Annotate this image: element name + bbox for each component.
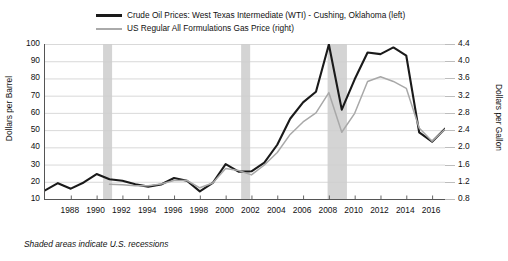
y2-tick-4.4: 4.4 — [458, 38, 484, 48]
series-line-gas — [110, 77, 445, 188]
y2-tick-2.0: 2.0 — [458, 141, 484, 151]
y2-tick-1.6: 1.6 — [458, 159, 484, 169]
y2-tick-mark — [445, 44, 455, 45]
series-line-wti — [45, 45, 445, 192]
y-tick-30: 30 — [10, 159, 40, 169]
line-swatch-gray-icon — [96, 28, 122, 30]
y-tick-70: 70 — [10, 90, 40, 100]
y2-tick-mark — [445, 78, 455, 79]
y2-tick-3.2: 3.2 — [458, 90, 484, 100]
chart-container: Crude Oil Prices: West Texas Intermediat… — [0, 0, 508, 261]
y2-tick-0.8: 0.8 — [458, 193, 484, 203]
chart-footnote: Shaded areas indicate U.S. recessions — [24, 239, 168, 249]
legend-label-gas: US Regular All Formulations Gas Price (r… — [127, 22, 294, 35]
legend-item-wti: Crude Oil Prices: West Texas Intermediat… — [96, 9, 405, 22]
y2-tick-2.8: 2.8 — [458, 107, 484, 117]
legend-label-wti: Crude Oil Prices: West Texas Intermediat… — [127, 9, 405, 22]
y2-tick-mark — [445, 96, 455, 97]
y-tick-60: 60 — [10, 107, 40, 117]
line-swatch-black-icon — [96, 14, 122, 17]
plot-area — [44, 44, 445, 200]
y2-tick-3.6: 3.6 — [458, 72, 484, 82]
y2-tick-mark — [445, 61, 455, 62]
y2-tick-2.4: 2.4 — [458, 124, 484, 134]
y-tick-90: 90 — [10, 55, 40, 65]
y-tick-20: 20 — [10, 176, 40, 186]
y2-tick-mark — [445, 165, 455, 166]
y2-tick-1.2: 1.2 — [458, 176, 484, 186]
chart-legend: Crude Oil Prices: West Texas Intermediat… — [96, 9, 405, 35]
legend-item-gas: US Regular All Formulations Gas Price (r… — [96, 22, 405, 35]
y2-tick-mark — [445, 199, 455, 200]
y-tick-50: 50 — [10, 124, 40, 134]
y2-tick-mark — [445, 182, 455, 183]
y2-tick-mark — [445, 147, 455, 148]
y2-tick-mark — [445, 130, 455, 131]
y2-tick-4.0: 4.0 — [458, 55, 484, 65]
x-tick-2016: 2016 — [415, 205, 447, 215]
y-tick-100: 100 — [10, 38, 40, 48]
data-lines — [45, 44, 445, 199]
y2-axis-title: Dollars per Gallon — [490, 84, 504, 151]
y-tick-40: 40 — [10, 141, 40, 151]
y-tick-10: 10 — [10, 193, 40, 203]
y-tick-80: 80 — [10, 72, 40, 82]
y2-tick-mark — [445, 113, 455, 114]
